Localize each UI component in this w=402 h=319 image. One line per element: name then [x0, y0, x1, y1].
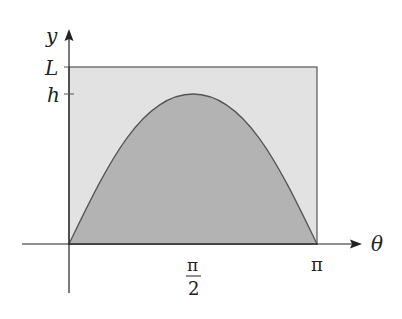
pi-over-2-denominator: 2	[188, 278, 199, 299]
theta-label: θ	[371, 232, 383, 256]
L-label: L	[44, 56, 58, 80]
needle-probability-diagram: y L h θ π 2 π	[0, 0, 402, 319]
pi-over-2-numerator: π	[187, 255, 198, 275]
pi-label: π	[311, 254, 323, 275]
y-axis-label: y	[45, 24, 58, 48]
h-label: h	[47, 83, 60, 107]
